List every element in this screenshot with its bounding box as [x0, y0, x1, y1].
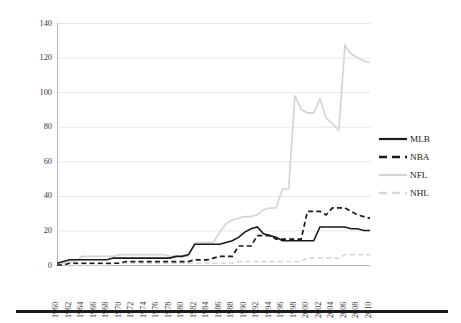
chart-svg	[57, 23, 372, 267]
legend-item-nfl: NFL	[378, 166, 456, 184]
legend-swatch-mlb-icon	[378, 134, 408, 144]
y-axis-tick-label: 0	[26, 261, 52, 270]
chart-legend: MLBNBANFLNHL	[378, 130, 456, 202]
legend-item-nhl: NHL	[378, 184, 456, 202]
y-axis-tick-labels: 020406080100120140	[26, 0, 52, 323]
legend-label: NBA	[408, 152, 429, 162]
legend-item-nba: NBA	[378, 148, 456, 166]
y-axis-tick-label: 120	[26, 53, 52, 62]
legend-label: NHL	[408, 188, 429, 198]
chart-figure: Millions of dollars (2010 dollars) 02040…	[0, 0, 461, 323]
y-axis-tick-label: 60	[26, 157, 52, 166]
legend-label: NFL	[408, 170, 427, 180]
legend-swatch-nba-icon	[378, 152, 408, 162]
footer-divider	[16, 310, 448, 313]
y-axis-tick-label: 140	[26, 19, 52, 28]
legend-swatch-nhl-icon	[378, 188, 408, 198]
legend-label: MLB	[408, 134, 430, 144]
axis-lines	[58, 23, 371, 266]
y-axis-tick-label: 80	[26, 122, 52, 131]
y-axis-tick-label: 20	[26, 226, 52, 235]
y-axis-tick-label: 40	[26, 191, 52, 200]
y-axis-tick-label: 100	[26, 88, 52, 97]
legend-item-mlb: MLB	[378, 130, 456, 148]
plot-area	[57, 23, 370, 265]
legend-swatch-nfl-icon	[378, 170, 408, 180]
